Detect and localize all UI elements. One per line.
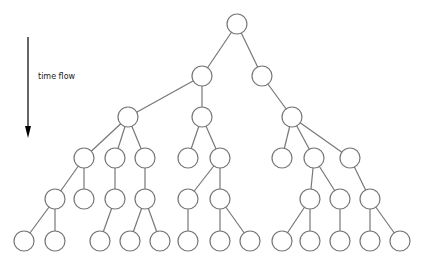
tree-node: [178, 231, 198, 251]
tree-node: [252, 66, 272, 86]
tree-node: [178, 189, 198, 209]
tree-node: [304, 148, 324, 168]
tree-node: [120, 231, 140, 251]
tree-edge: [128, 76, 202, 117]
tree-node: [240, 231, 260, 251]
tree-node: [192, 66, 212, 86]
time-flow-label: time flow: [38, 72, 75, 81]
tree-node: [90, 231, 110, 251]
tree-node: [282, 107, 302, 127]
tree-node: [150, 231, 170, 251]
tree-node: [390, 231, 410, 251]
tree-node: [272, 231, 292, 251]
tree-node: [330, 189, 350, 209]
tree-node: [135, 148, 155, 168]
tree-node: [74, 189, 94, 209]
tree-node: [340, 148, 360, 168]
tree-node: [210, 189, 230, 209]
tree-node: [118, 107, 138, 127]
tree-node: [210, 231, 230, 251]
tree-node: [74, 148, 94, 168]
tree-node: [330, 231, 350, 251]
tree-node: [45, 189, 65, 209]
tree-node: [272, 148, 292, 168]
tree-node: [135, 189, 155, 209]
tree-node: [105, 189, 125, 209]
tree-node: [45, 231, 65, 251]
tree-diagram: [0, 0, 421, 268]
tree-node: [178, 148, 198, 168]
tree-node: [227, 14, 247, 34]
tree-node: [192, 107, 212, 127]
tree-nodes: [14, 14, 410, 251]
tree-node: [14, 231, 34, 251]
tree-node: [360, 231, 380, 251]
time-arrow: [25, 37, 31, 138]
tree-node: [300, 189, 320, 209]
tree-node: [300, 231, 320, 251]
tree-node: [210, 148, 230, 168]
arrow-down-icon: [25, 126, 31, 138]
tree-node: [105, 148, 125, 168]
tree-node: [360, 189, 380, 209]
